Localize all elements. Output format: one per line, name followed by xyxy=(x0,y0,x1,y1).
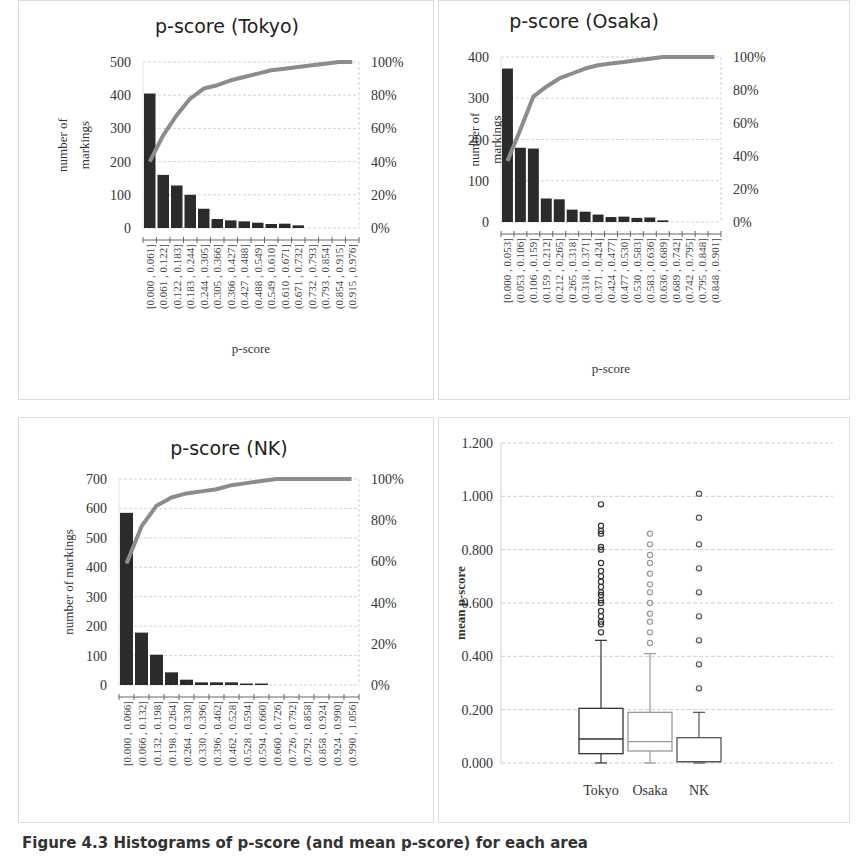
y-tick-label: 0 xyxy=(100,678,107,693)
panel-tokyo: p-score (Tokyo)01002003004005000%20%40%6… xyxy=(18,0,434,400)
iqr-box xyxy=(677,738,721,762)
x-tick-label: (0.488 , 0.549] xyxy=(252,244,265,309)
histogram-bar xyxy=(252,223,264,228)
histogram-bar xyxy=(567,210,578,222)
outlier-point xyxy=(598,568,603,573)
x-tick-label: (0.915 , 0.976] xyxy=(346,244,359,309)
x-tick-label: (0.795 , 0.848] xyxy=(696,238,709,303)
x-tick-label: (0.610 , 0.671] xyxy=(279,244,292,309)
y2-tick-label: 0% xyxy=(371,678,390,693)
x-category-label: NK xyxy=(689,783,709,798)
y-axis-label: number of xyxy=(55,117,70,171)
y2-tick-label: 80% xyxy=(733,83,759,98)
x-tick-label: (0.636 , 0.689] xyxy=(657,238,670,303)
outlier-point xyxy=(647,531,652,536)
x-tick-label: (0.742 , 0.795] xyxy=(683,238,696,303)
y2-tick-label: 40% xyxy=(371,155,397,170)
y-tick-label: 0.800 xyxy=(462,543,494,558)
x-tick-label: (0.660 , 0.726] xyxy=(271,701,284,766)
outlier-point xyxy=(647,552,652,557)
y2-tick-label: 20% xyxy=(733,182,759,197)
x-tick-label: (0.265 , 0.318] xyxy=(566,238,579,303)
x-tick-label: (0.424 , 0.477] xyxy=(605,238,618,303)
box-nk xyxy=(677,491,721,763)
y-tick-label: 0.200 xyxy=(462,703,494,718)
x-category-label: Tokyo xyxy=(583,783,619,798)
outlier-point xyxy=(696,638,701,643)
x-tick-label: (0.594 , 0.660] xyxy=(256,701,269,766)
x-tick-label: (0.122 , 0.183] xyxy=(171,244,184,309)
cumulative-line xyxy=(150,62,353,162)
chart-mean-pscore-boxplot: 0.0000.2000.4000.6000.8001.0001.200mean … xyxy=(439,418,849,822)
histogram-bar xyxy=(515,148,526,222)
outlier-point xyxy=(696,614,701,619)
x-tick-label: (0.330 , 0.396] xyxy=(196,701,209,766)
x-tick-label: (0.159 , 0.212] xyxy=(540,238,553,303)
outlier-point xyxy=(598,630,603,635)
panel-osaka: p-score (Osaka)01002003004000%20%40%60%8… xyxy=(438,0,850,400)
y2-tick-label: 20% xyxy=(371,188,397,203)
histogram-bar xyxy=(618,217,629,222)
chart-osaka-histogram: p-score (Osaka)01002003004000%20%40%60%8… xyxy=(439,1,849,399)
histogram-bar xyxy=(255,684,268,685)
y2-tick-label: 0% xyxy=(733,215,752,230)
histogram-bar xyxy=(266,224,278,228)
y-axis-label: number of xyxy=(467,112,482,166)
y-axis-label: mean p-score xyxy=(453,566,468,640)
box-tokyo xyxy=(579,502,623,763)
histogram-bar xyxy=(631,218,642,222)
x-tick-label: (0.528 , 0.594] xyxy=(241,701,254,766)
y-tick-label: 200 xyxy=(110,155,131,170)
histogram-bar xyxy=(580,212,591,222)
histogram-bar xyxy=(239,221,251,228)
x-tick-label: (0.689 , 0.742] xyxy=(670,238,683,303)
histogram-bar xyxy=(165,672,178,685)
x-tick-label: (0.132 , 0.198] xyxy=(151,701,164,766)
y2-tick-label: 40% xyxy=(733,149,759,164)
histogram-bar xyxy=(225,220,237,228)
y-tick-label: 0 xyxy=(124,221,131,236)
box-osaka xyxy=(628,531,672,763)
histogram-bar xyxy=(279,224,291,228)
outlier-point xyxy=(696,686,701,691)
y-axis-label: number of markings xyxy=(61,529,76,634)
x-tick-label: (0.530 , 0.583] xyxy=(631,238,644,303)
y-tick-label: 300 xyxy=(86,590,107,605)
outlier-point xyxy=(647,571,652,576)
histogram-bar xyxy=(198,209,210,228)
histogram-bar xyxy=(135,633,148,685)
x-axis-label: p-score xyxy=(592,361,630,376)
outlier-point xyxy=(647,582,652,587)
x-tick-label: (0.854 , 0.915] xyxy=(333,244,346,309)
y-tick-label: 500 xyxy=(86,531,107,546)
x-tick-label: (0.264 , 0.330] xyxy=(181,701,194,766)
x-tick-label: (0.371 , 0.424] xyxy=(592,238,605,303)
histogram-bar xyxy=(171,186,183,228)
x-tick-label: (0.990 , 1.056] xyxy=(346,701,359,766)
outlier-point xyxy=(647,590,652,595)
x-tick-label: (0.792 , 0.858] xyxy=(301,701,314,766)
chart-title: p-score (Tokyo) xyxy=(155,15,299,37)
chart-tokyo-histogram: p-score (Tokyo)01002003004005000%20%40%6… xyxy=(19,1,433,399)
figure-caption: Figure 4.3 Histograms of p-score (and me… xyxy=(22,834,588,852)
y2-tick-label: 20% xyxy=(371,637,397,652)
x-tick-label: (0.549 , 0.610] xyxy=(265,244,278,309)
x-tick-label: (0.106 , 0.159] xyxy=(527,238,540,303)
x-tick-label: (0.061 , 0.122] xyxy=(157,244,170,309)
y-tick-label: 400 xyxy=(86,560,107,575)
cumulative-line xyxy=(127,479,352,563)
histogram-bar xyxy=(180,680,193,685)
outlier-point xyxy=(598,574,603,579)
outlier-point xyxy=(647,542,652,547)
iqr-box xyxy=(628,712,672,751)
x-tick-label: (0.726 , 0.792] xyxy=(286,701,299,766)
x-tick-label: [0.000 , 0.053] xyxy=(501,238,513,303)
histogram-bar xyxy=(240,684,253,685)
y2-tick-label: 100% xyxy=(371,55,404,70)
y-tick-label: 600 xyxy=(86,501,107,516)
histogram-bar xyxy=(554,199,565,222)
x-tick-label: (0.053 , 0.106] xyxy=(514,238,527,303)
iqr-box xyxy=(579,708,623,753)
y2-tick-label: 60% xyxy=(371,554,397,569)
x-tick-label: (0.305 , 0.366] xyxy=(211,244,224,309)
